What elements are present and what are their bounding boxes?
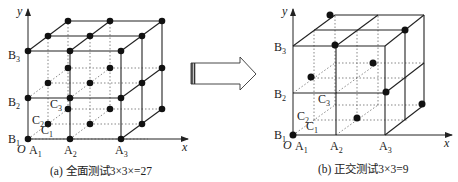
svg-text:A2: A2	[64, 143, 77, 159]
orthogonal-design-diagram: y x O B3 B2 B1 A1 A2 A3 C1 C2 C3 (a) 全面测…	[0, 0, 458, 182]
svg-text:A3: A3	[379, 139, 392, 155]
svg-text:B1: B1	[274, 128, 286, 144]
y-axis-label: y	[281, 4, 288, 18]
svg-text:B3: B3	[274, 40, 286, 56]
caption-b: (b) 正交测试3×3=9	[318, 162, 409, 176]
y-axis-label: y	[16, 4, 23, 18]
svg-text:A3: A3	[115, 143, 128, 159]
x-axis-label: x	[443, 136, 450, 150]
svg-text:A2: A2	[330, 139, 343, 155]
svg-text:B3: B3	[8, 48, 20, 64]
svg-text:A1: A1	[29, 143, 42, 159]
svg-text:B2: B2	[8, 95, 20, 111]
svg-text:A1: A1	[295, 139, 308, 155]
caption-a: (a) 全面测试3×3×=27	[50, 164, 152, 178]
transform-arrow-icon	[191, 57, 256, 90]
svg-text:C3: C3	[318, 92, 330, 108]
svg-text:B2: B2	[274, 87, 286, 103]
svg-text:C3: C3	[50, 97, 62, 113]
svg-text:C2: C2	[297, 109, 309, 125]
x-axis-label: x	[181, 140, 188, 154]
svg-text:C2: C2	[32, 113, 44, 129]
panel-a-full-test	[25, 9, 188, 142]
svg-text:B1: B1	[8, 132, 20, 148]
